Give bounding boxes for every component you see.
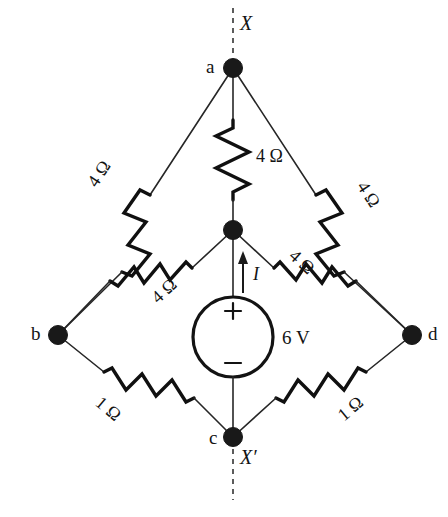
node-label-b: b xyxy=(31,324,41,343)
node-dot-c xyxy=(224,428,243,447)
current-label: I xyxy=(253,265,259,283)
node-label-a: a xyxy=(206,57,214,76)
node-dot-middle xyxy=(224,221,243,240)
cut-label-x: X xyxy=(240,13,252,33)
circuit-diagram: a b c d X X′ 4 Ω 4 Ω 4 Ω 4 Ω 4 Ω 1 Ω 1 Ω… xyxy=(0,0,448,517)
wire-a-b-upper xyxy=(150,68,233,195)
resistor-a-d-zigzag xyxy=(316,190,344,276)
node-label-c: c xyxy=(209,428,217,447)
node-dot-a xyxy=(224,59,243,78)
resistor-b-c-zigzag xyxy=(104,368,194,402)
resistor-label-a-m: 4 Ω xyxy=(256,147,283,165)
node-dot-b xyxy=(49,326,68,345)
voltage-source-label: 6 V xyxy=(282,328,310,347)
node-dot-d xyxy=(403,326,422,345)
resistor-m-b-zigzag xyxy=(110,262,192,286)
wire-m-b-lower xyxy=(58,281,110,335)
resistor-a-b-zigzag xyxy=(122,190,150,276)
current-arrow-head xyxy=(238,251,248,264)
node-label-d: d xyxy=(428,324,438,343)
cut-label-xprime: X′ xyxy=(240,447,257,467)
circuit-canvas xyxy=(0,0,448,517)
resistor-a-m-zigzag xyxy=(216,120,249,200)
wire-m-d-lower xyxy=(356,281,412,335)
wire-a-d-upper xyxy=(233,68,316,195)
